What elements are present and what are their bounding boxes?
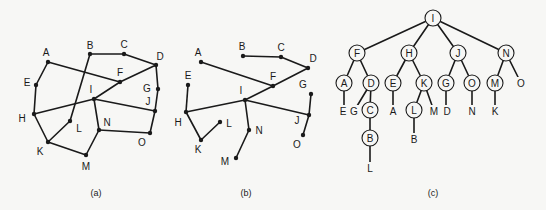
node-E-dot bbox=[34, 83, 38, 87]
node-M-label: M bbox=[221, 156, 229, 167]
node-J-dot bbox=[153, 109, 157, 113]
node-N-label: N bbox=[255, 125, 262, 136]
tree-leaf-B-label: B bbox=[411, 134, 418, 145]
edge-F-A bbox=[201, 62, 273, 86]
tree-node-G-label: G bbox=[442, 78, 450, 89]
node-A-dot bbox=[199, 60, 203, 64]
node-C-label: C bbox=[277, 42, 284, 53]
tree-leaf-K-label: K bbox=[492, 106, 499, 117]
node-F-label: F bbox=[117, 67, 123, 78]
node-I-dot bbox=[243, 98, 247, 102]
tree-leaf-M-label: M bbox=[430, 106, 438, 117]
node-I-label: I bbox=[90, 84, 93, 95]
edge-I-F bbox=[94, 82, 120, 99]
caption-a: (a) bbox=[91, 188, 102, 198]
edge-I-H bbox=[186, 100, 245, 112]
tree-node-F-label: F bbox=[354, 48, 360, 59]
edge-O-J bbox=[150, 111, 155, 133]
node-I-label: I bbox=[240, 85, 243, 96]
node-A-label: A bbox=[195, 47, 202, 58]
edge-F-D bbox=[120, 65, 156, 82]
edge-N-O bbox=[99, 130, 150, 133]
edge-K-L bbox=[201, 122, 220, 140]
node-L-dot bbox=[218, 120, 222, 124]
node-D-label: D bbox=[309, 53, 316, 64]
edge-C-D bbox=[281, 57, 308, 68]
node-O-dot bbox=[301, 133, 305, 137]
node-N-dot bbox=[247, 128, 251, 132]
node-O-dot bbox=[148, 131, 152, 135]
node-O-label: O bbox=[293, 139, 301, 150]
edge-J-G bbox=[309, 94, 311, 115]
node-C-dot bbox=[122, 52, 126, 56]
edge-J-G bbox=[155, 89, 158, 111]
tree-node-A-label: A bbox=[341, 78, 348, 89]
node-K-dot bbox=[199, 138, 203, 142]
tree-node-N-label: N bbox=[502, 48, 509, 59]
node-L-label: L bbox=[226, 118, 232, 129]
tree-node-K-label: K bbox=[421, 78, 428, 89]
edge-H-K bbox=[186, 112, 201, 140]
edge-A-F bbox=[48, 62, 120, 82]
caption-b: (b) bbox=[241, 188, 252, 198]
node-C-dot bbox=[279, 55, 283, 59]
node-B-label: B bbox=[87, 40, 94, 51]
tree-node-J-label: J bbox=[456, 48, 461, 59]
node-H-label: H bbox=[18, 113, 25, 124]
tree-leaf-D-label: D bbox=[443, 106, 450, 117]
edge-B-C bbox=[243, 56, 281, 57]
node-N-label: N bbox=[103, 117, 110, 128]
tree-node-H-label: H bbox=[405, 48, 412, 59]
node-L-label: L bbox=[76, 123, 82, 134]
edge-K-M bbox=[48, 142, 86, 155]
tree-leaf-G-label: G bbox=[350, 106, 358, 117]
edge-I-N bbox=[245, 100, 249, 130]
tree-node-C-label: C bbox=[366, 105, 373, 116]
edge-H-K bbox=[34, 114, 48, 142]
tree-leaf-O-label: O bbox=[517, 78, 525, 89]
edge-M-N bbox=[86, 130, 99, 155]
panel-b-spanning-tree: ABCDEFGHIJKLMNO bbox=[174, 41, 316, 167]
panel-a-graph: ABCDEFGHIJKLMNO bbox=[18, 39, 163, 172]
edge-N-M bbox=[236, 130, 249, 158]
tree-leaf-E-label: E bbox=[340, 106, 347, 117]
node-K-label: K bbox=[195, 144, 202, 155]
node-K-label: K bbox=[37, 146, 44, 157]
tree-node-B-label: B bbox=[367, 133, 374, 144]
edge-H-I bbox=[34, 99, 94, 114]
edge-I-J bbox=[245, 100, 309, 115]
node-F-dot bbox=[118, 80, 122, 84]
node-J-dot bbox=[307, 113, 311, 117]
node-A-label: A bbox=[43, 47, 50, 58]
node-D-dot bbox=[306, 66, 310, 70]
edge-D-C bbox=[124, 54, 156, 65]
node-D-label: D bbox=[156, 51, 163, 62]
tree-leaf-L-label: L bbox=[367, 163, 373, 174]
panel-c-tree: IFHJNADEKGOMCLBOEGAMDNKBL bbox=[336, 10, 526, 174]
node-B-label: B bbox=[239, 41, 246, 52]
node-E-dot bbox=[186, 83, 190, 87]
tree-node-L-label: L bbox=[411, 105, 417, 116]
edge-A-E bbox=[36, 62, 48, 85]
node-L-dot bbox=[68, 119, 72, 123]
tree-node-D-label: D bbox=[367, 78, 374, 89]
node-G-label: G bbox=[299, 79, 307, 90]
node-H-dot bbox=[184, 110, 188, 114]
tree-node-O-label: O bbox=[468, 78, 476, 89]
caption-c: (c) bbox=[428, 188, 439, 198]
node-F-dot bbox=[271, 84, 275, 88]
edge-F-I bbox=[245, 86, 273, 100]
edge-B-L bbox=[70, 54, 90, 121]
node-K-dot bbox=[46, 140, 50, 144]
node-J-label: J bbox=[295, 115, 300, 126]
tree-leaf-N-label: N bbox=[468, 106, 475, 117]
node-G-label: G bbox=[143, 83, 151, 94]
tree-node-M-label: M bbox=[491, 78, 499, 89]
edge-J-O bbox=[303, 115, 309, 135]
node-G-dot bbox=[156, 87, 160, 91]
node-D-dot bbox=[154, 63, 158, 67]
node-M-dot bbox=[84, 153, 88, 157]
node-E-label: E bbox=[185, 70, 192, 81]
node-H-label: H bbox=[174, 117, 181, 128]
edge-H-E bbox=[186, 85, 188, 112]
